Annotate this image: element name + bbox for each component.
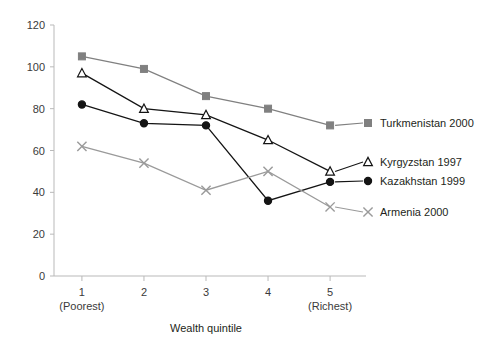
data-point-marker [78, 53, 85, 60]
y-axis-tick-label: 40 [33, 186, 45, 198]
legend-item-3: Kazakhstan 1999 [335, 175, 465, 187]
x-axis-tick-label: 3 [203, 286, 209, 298]
legend-label: Armenia 2000 [380, 206, 449, 218]
y-axis-tick-label: 60 [33, 145, 45, 157]
data-point-marker [140, 120, 147, 127]
x-axis-tick-label: 4 [265, 286, 271, 298]
legend-leader-line [335, 181, 363, 182]
y-axis-tick-label: 120 [27, 19, 45, 31]
data-point-marker [139, 158, 148, 167]
data-point-marker [140, 65, 147, 72]
data-point-marker [78, 101, 85, 108]
y-axis-tick-label: 80 [33, 103, 45, 115]
data-point-marker [364, 157, 373, 165]
x-axis-tick-label: 5 [327, 286, 333, 298]
data-point-marker [263, 167, 272, 176]
legend-leader-line [335, 123, 363, 125]
x-axis-tick-sublabel: (Poorest) [59, 300, 104, 312]
data-point-marker [203, 93, 210, 100]
y-axis-tick-label: 100 [27, 61, 45, 73]
legend-item-1: Turkmenistan 2000 [335, 117, 474, 129]
x-axis-title: Wealth quintile [170, 322, 242, 334]
data-point-marker [264, 197, 271, 204]
legend-leader-line [335, 162, 363, 171]
data-point-marker [78, 69, 87, 77]
data-point-marker [364, 177, 371, 184]
chart-container: 0204060801001201(Poorest)2345(Richest)We… [0, 0, 489, 339]
legend-item-4: Armenia 2000 [335, 206, 448, 218]
data-point-marker [326, 178, 333, 185]
data-point-marker [327, 122, 334, 129]
legend-leader-line [335, 207, 363, 212]
y-axis-tick-label: 0 [39, 270, 45, 282]
data-point-marker [325, 202, 334, 211]
line-chart: 0204060801001201(Poorest)2345(Richest)We… [0, 0, 489, 339]
data-point-marker [365, 120, 372, 127]
legend-item-2: Kyrgyzstan 1997 [335, 156, 462, 171]
series-line [82, 146, 330, 207]
y-axis-tick-label: 20 [33, 228, 45, 240]
data-point-marker [202, 122, 209, 129]
legend-label: Turkmenistan 2000 [380, 117, 474, 129]
data-point-marker [264, 135, 273, 143]
data-point-marker [201, 186, 210, 195]
x-axis-tick-label: 2 [141, 286, 147, 298]
data-point-marker [363, 207, 372, 216]
data-point-marker [265, 105, 272, 112]
legend-label: Kyrgyzstan 1997 [380, 156, 462, 168]
legend-label: Kazakhstan 1999 [380, 175, 465, 187]
x-axis-tick-label: 1 [79, 286, 85, 298]
data-point-marker [140, 104, 149, 112]
series-4 [77, 142, 334, 212]
data-point-marker [77, 142, 86, 151]
x-axis-tick-sublabel: (Richest) [308, 300, 352, 312]
data-point-marker [326, 167, 335, 175]
